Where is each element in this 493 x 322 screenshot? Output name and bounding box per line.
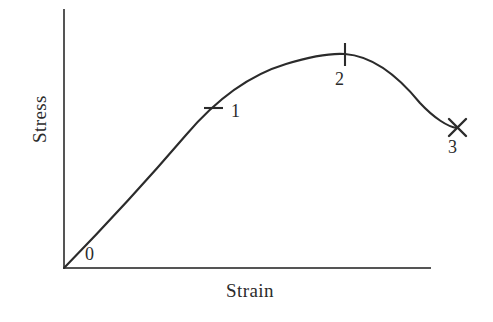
- point-2-label: 2: [335, 70, 344, 88]
- stress-strain-chart: [0, 0, 493, 322]
- point-0-label: 0: [85, 245, 94, 263]
- point-1-label: 1: [231, 102, 240, 120]
- chart-background: [0, 0, 493, 322]
- point-3-label: 3: [448, 138, 457, 156]
- x-axis-label: Strain: [195, 280, 305, 302]
- y-axis-label: Stress: [29, 69, 51, 169]
